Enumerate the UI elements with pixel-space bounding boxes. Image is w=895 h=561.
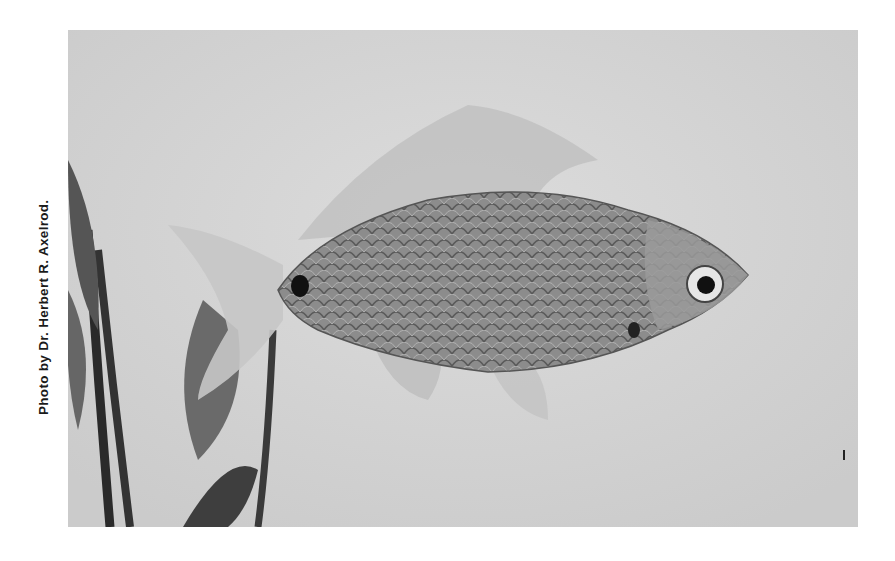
fish-illustration [68,30,858,527]
fish-photograph [68,30,858,527]
photo-credit-caption: Photo by Dr. Herbert R. Axelrod. [36,200,51,415]
